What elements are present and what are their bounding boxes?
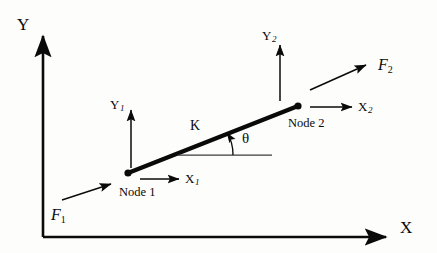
node1-dof-y-label: Y1 [110, 98, 124, 111]
node1-dof-y-subscript: 1 [120, 103, 125, 113]
node2-force-subscript: 2 [388, 64, 393, 75]
diagram-canvas: Y X K θ Node 1 X1 Y1 F1 Node 2 X2 Y2 F2 [0, 0, 437, 253]
node2-force-letter: F [378, 56, 388, 73]
node1-dof-y-letter: Y [110, 97, 119, 112]
node1-force-letter: F [51, 206, 61, 223]
x-axis-label: X [400, 219, 412, 236]
node1-dof-x-letter: X [185, 171, 194, 186]
node2-dof-y-letter: Y [262, 28, 271, 43]
node2-force-arrow [310, 65, 366, 90]
node2-name-label: Node 2 [288, 117, 324, 130]
node2-force-label: F2 [378, 57, 393, 73]
element-stiffness-label: K [190, 119, 200, 133]
node2-dof-x-label: X2 [358, 100, 372, 113]
node1-dof-x-subscript: 1 [195, 177, 200, 187]
node2-dof-x-subscript: 2 [368, 105, 373, 115]
node1-name-label: Node 1 [119, 186, 155, 199]
node1-force-subscript: 1 [61, 214, 66, 225]
node-dot-icon-node1 [124, 169, 131, 176]
node-dot-icon-node2 [294, 102, 301, 109]
element-beam [128, 106, 298, 173]
node1-dof-x-label: X1 [185, 172, 199, 185]
node2-dof-y-label: Y2 [262, 29, 276, 42]
node1-force-label: F1 [51, 207, 66, 223]
element-angle-label: θ [242, 131, 249, 146]
y-axis-label: Y [17, 16, 29, 33]
node2-dof-y-subscript: 2 [272, 34, 277, 44]
angle-arc-icon [227, 133, 233, 155]
node2-dof-x-letter: X [358, 99, 367, 114]
node1-force-arrow [62, 184, 111, 200]
